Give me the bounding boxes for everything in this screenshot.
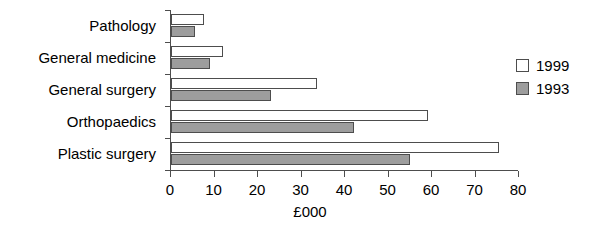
x-axis-tick-label: 80 [498,181,538,198]
x-axis-tick-label: 10 [194,181,234,198]
legend-swatch-1999 [516,59,529,72]
category-axis-labels: PathologyGeneral medicineGeneral surgery… [0,10,163,170]
legend-item: 1993 [516,78,608,98]
bar-1999 [171,46,223,57]
bar-1993 [171,58,210,69]
bar-1999 [171,14,204,25]
bar-1993 [171,26,195,37]
bar-group [171,10,519,42]
legend: 19991993 [516,55,608,101]
bar-chart: PathologyGeneral medicineGeneral surgery… [0,0,614,238]
x-axis-tick-label: 30 [281,181,321,198]
plot-area [170,10,519,170]
x-axis-tick [344,171,345,177]
x-axis-tick [170,171,171,177]
bar-1999 [171,110,428,121]
x-axis-tick [388,171,389,177]
legend-swatch-1993 [516,82,529,95]
x-axis-tick [257,171,258,177]
legend-label: 1993 [536,80,569,97]
bar-group [171,42,519,74]
x-axis-tick-label: 40 [324,181,364,198]
y-axis-tick [165,74,171,75]
category-label: Pathology [89,10,156,42]
y-axis-tick [165,10,171,11]
category-label: General medicine [38,42,156,74]
category-label: Orthopaedics [67,106,156,138]
legend-item: 1999 [516,55,608,75]
x-axis-tick [214,171,215,177]
x-axis-title: £000 [270,203,350,220]
bar-1993 [171,90,271,101]
x-axis-tick-label: 20 [237,181,277,198]
x-axis-tick [518,171,519,177]
bar-group [171,106,519,138]
x-axis-tick-label: 0 [150,181,190,198]
x-axis-tick-label: 60 [411,181,451,198]
bar-1999 [171,142,499,153]
x-axis-tick-label: 70 [455,181,495,198]
bar-group [171,138,519,170]
bar-1993 [171,154,410,165]
x-axis-tick [475,171,476,177]
x-axis-tick-label: 50 [368,181,408,198]
x-axis: 01020304050607080 [170,170,518,171]
bar-1993 [171,122,354,133]
y-axis-tick [165,106,171,107]
bar-1999 [171,78,317,89]
category-label: General surgery [48,74,156,106]
bar-group [171,74,519,106]
x-axis-tick [431,171,432,177]
y-axis-tick [165,138,171,139]
y-axis-tick [165,42,171,43]
category-label: Plastic surgery [58,138,156,170]
x-axis-tick [301,171,302,177]
legend-label: 1999 [536,57,569,74]
